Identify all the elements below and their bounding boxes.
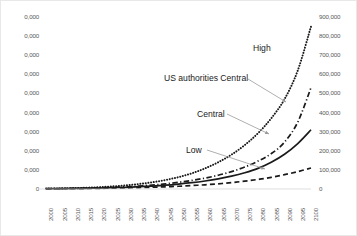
y-axis-left-ticklabel: 0,000 bbox=[1, 33, 39, 39]
series-line-us-authorities-central bbox=[46, 88, 311, 189]
y-axis-left-ticklabel: 0,000 bbox=[1, 110, 39, 116]
x-axis-ticklabel: 2015 bbox=[88, 208, 94, 221]
y-axis-right-ticklabel: 600,000 bbox=[319, 71, 340, 77]
y-axis-left-ticklabel: 0 bbox=[1, 186, 39, 192]
x-axis-ticklabel: 2090 bbox=[287, 208, 293, 221]
annotation-us-authorities-central: US authorities Central bbox=[164, 74, 248, 83]
x-axis-ticklabel: 2010 bbox=[75, 208, 81, 221]
chart-figure: 00,0000,0000,0000,0000,0000,0000,0000,00… bbox=[0, 0, 357, 236]
series-line-high bbox=[46, 27, 311, 189]
x-axis-ticklabel: 2060 bbox=[207, 208, 213, 221]
x-axis-ticklabel: 2065 bbox=[221, 208, 227, 221]
y-axis-right-ticklabel: 400,000 bbox=[319, 110, 340, 116]
y-axis-right-ticklabel: 900,000 bbox=[319, 14, 340, 20]
leader-central-arrowhead bbox=[265, 131, 269, 134]
leader-us-authorities-central-arrowhead bbox=[282, 99, 286, 102]
x-axis-ticklabel: 2020 bbox=[101, 208, 107, 221]
y-axis-left-ticklabel: 0,000 bbox=[1, 129, 39, 135]
y-axis-left-ticklabel: 0,000 bbox=[1, 167, 39, 173]
series-line-low bbox=[46, 168, 311, 189]
annotation-low: Low bbox=[186, 146, 202, 155]
x-axis-ticklabel: 2085 bbox=[274, 208, 280, 221]
y-axis-left-ticklabel: 0,000 bbox=[1, 90, 39, 96]
x-axis-ticklabel: 2075 bbox=[247, 208, 253, 221]
y-axis-right-ticklabel: 200,000 bbox=[319, 148, 340, 154]
leader-low-arrowhead bbox=[261, 166, 265, 169]
y-axis-right-ticklabel: 0 bbox=[319, 186, 322, 192]
y-axis-left-ticklabel: 0,000 bbox=[1, 148, 39, 154]
x-axis-ticklabel: 2040 bbox=[154, 208, 160, 221]
x-axis-ticklabel: 2070 bbox=[234, 208, 240, 221]
y-axis-left-ticklabel: 0,000 bbox=[1, 52, 39, 58]
leader-us-authorities-central bbox=[248, 79, 286, 102]
x-axis-ticklabel: 2005 bbox=[62, 208, 68, 221]
x-axis-ticklabel: 2000 bbox=[48, 208, 54, 221]
series-line-central bbox=[46, 130, 311, 189]
y-axis-right-ticklabel: 300,000 bbox=[319, 129, 340, 135]
x-axis-ticklabel: 2080 bbox=[260, 208, 266, 221]
y-axis-left-ticklabel: 0,000 bbox=[1, 71, 39, 77]
leader-central bbox=[227, 114, 269, 134]
y-axis-right-ticklabel: 500,000 bbox=[319, 90, 340, 96]
x-axis-ticklabel: 2035 bbox=[141, 208, 147, 221]
x-axis-ticklabel: 2055 bbox=[194, 208, 200, 221]
annotation-high: High bbox=[253, 44, 271, 53]
x-axis-ticklabel: 2050 bbox=[181, 208, 187, 221]
x-axis-ticklabel: 2030 bbox=[128, 208, 134, 221]
x-axis-ticklabel: 2100 bbox=[313, 208, 319, 221]
y-axis-right-ticklabel: 100,000 bbox=[319, 167, 340, 173]
x-axis-ticklabel: 2095 bbox=[300, 208, 306, 221]
y-axis-right-ticklabel: 800,000 bbox=[319, 33, 340, 39]
annotation-central: Central bbox=[197, 110, 225, 119]
x-axis-ticklabel: 2025 bbox=[115, 208, 121, 221]
leader-low bbox=[207, 150, 265, 169]
y-axis-left-ticklabel: 0,000 bbox=[1, 14, 39, 20]
y-axis-right-ticklabel: 700,000 bbox=[319, 52, 340, 58]
plot-area bbox=[1, 1, 357, 236]
x-axis-ticklabel: 2045 bbox=[168, 208, 174, 221]
